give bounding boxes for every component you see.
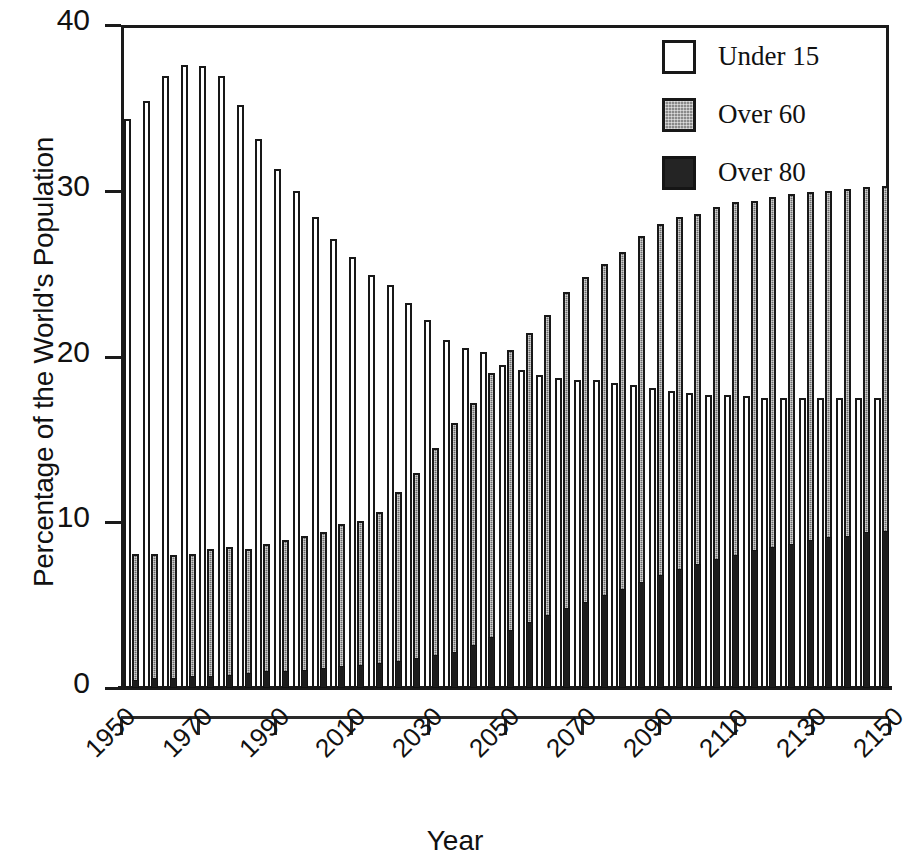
- legend-swatch-over-80-icon: [662, 156, 696, 190]
- bar-group: [836, 28, 854, 688]
- bar-over-80: [451, 652, 458, 688]
- bar-over-80: [507, 630, 514, 688]
- bar-group: [480, 28, 498, 688]
- bar-under-15: [817, 398, 824, 688]
- bar-over-60: [338, 524, 345, 688]
- bar-under-15: [124, 119, 131, 688]
- bar-over-60: [320, 532, 327, 688]
- y-axis-title: Percentage of the World's Population: [28, 32, 60, 692]
- bar-group: [312, 28, 330, 688]
- bar-group: [237, 28, 255, 688]
- bar-under-15: [611, 383, 618, 688]
- legend-item-over-80: Over 80: [662, 149, 819, 196]
- bar-over-80: [563, 608, 570, 688]
- bar-group: [499, 28, 517, 688]
- legend-item-over-60: Over 60: [662, 91, 819, 138]
- x-axis-tick-label: 1970: [156, 701, 219, 764]
- bar-over-80: [170, 678, 177, 688]
- bar-over-80: [582, 602, 589, 688]
- x-axis-title: Year: [0, 825, 910, 857]
- x-axis-tick-label: 2030: [386, 701, 449, 764]
- bar-under-15: [743, 396, 750, 688]
- x-axis-tick-label: 2110: [693, 702, 754, 763]
- legend-item-under-15: Under 15: [662, 33, 819, 80]
- bar-over-80: [226, 675, 233, 688]
- bar-group: [518, 28, 536, 688]
- bar-over-80: [769, 547, 776, 688]
- bar-under-15: [330, 239, 337, 688]
- bar-over-60: [282, 540, 289, 688]
- bar-under-15: [855, 398, 862, 688]
- bar-over-80: [844, 536, 851, 688]
- bar-group: [874, 28, 892, 688]
- y-axis-tick: [105, 190, 121, 193]
- bar-group: [124, 28, 142, 688]
- bar-over-80: [676, 569, 683, 688]
- bar-under-15: [593, 380, 600, 688]
- bar-over-80: [863, 532, 870, 688]
- bar-over-80: [132, 680, 139, 688]
- bar-over-80: [189, 676, 196, 688]
- bar-group: [574, 28, 592, 688]
- y-axis-tick-label: 10: [57, 500, 90, 534]
- bar-over-60: [376, 512, 383, 688]
- bar-over-60: [413, 473, 420, 688]
- bar-group: [255, 28, 273, 688]
- x-axis-tick-label: 2070: [540, 701, 603, 764]
- bar-under-15: [705, 395, 712, 688]
- y-axis-tick-label: 40: [57, 3, 90, 37]
- bar-group: [181, 28, 199, 688]
- bar-over-80: [488, 637, 495, 688]
- bar-group: [218, 28, 236, 688]
- bar-over-60: [245, 549, 252, 688]
- bar-over-60: [170, 555, 177, 688]
- bar-group: [855, 28, 873, 688]
- bar-under-15: [555, 378, 562, 688]
- bar-over-80: [732, 555, 739, 688]
- bar-group: [424, 28, 442, 688]
- legend: Under 15 Over 60 Over 80: [662, 33, 819, 207]
- bar-under-15: [668, 391, 675, 688]
- bar-over-80: [151, 678, 158, 688]
- bar-over-80: [376, 663, 383, 688]
- bar-group: [536, 28, 554, 688]
- bar-over-80: [338, 666, 345, 688]
- y-axis-tick: [105, 521, 121, 524]
- bar-over-80: [413, 658, 420, 688]
- y-axis-tick: [105, 687, 121, 690]
- bar-over-80: [320, 668, 327, 688]
- bar-under-15: [630, 385, 637, 688]
- bar-group: [593, 28, 611, 688]
- bar-over-60: [132, 554, 139, 688]
- bar-over-80: [526, 622, 533, 688]
- y-axis-tick: [105, 24, 121, 27]
- bar-over-60: [432, 448, 439, 688]
- bar-under-15: [424, 320, 431, 688]
- bar-group: [443, 28, 461, 688]
- bar-group: [368, 28, 386, 688]
- bar-over-80: [807, 540, 814, 688]
- bar-over-60: [207, 549, 214, 688]
- bar-group: [817, 28, 835, 688]
- bar-under-15: [649, 388, 656, 688]
- bar-over-60: [357, 521, 364, 688]
- bar-over-80: [282, 671, 289, 688]
- x-axis-tick-label: 2050: [463, 701, 526, 764]
- bar-over-80: [619, 589, 626, 688]
- bar-under-15: [761, 398, 768, 688]
- bar-under-15: [780, 398, 787, 688]
- bar-over-80: [301, 670, 308, 688]
- bar-over-60: [189, 554, 196, 688]
- x-axis-tick-label: 1950: [79, 701, 142, 764]
- bar-over-60: [301, 536, 308, 688]
- bar-group: [330, 28, 348, 688]
- x-axis-tick-label: 2130: [770, 701, 833, 764]
- bar-over-80: [694, 564, 701, 688]
- y-axis-tick-label: 0: [73, 666, 90, 700]
- bar-under-15: [255, 139, 262, 688]
- bar-over-60: [151, 554, 158, 688]
- bar-under-15: [218, 76, 225, 688]
- y-axis-tick: [105, 356, 121, 359]
- bar-over-80: [638, 582, 645, 688]
- bar-group: [162, 28, 180, 688]
